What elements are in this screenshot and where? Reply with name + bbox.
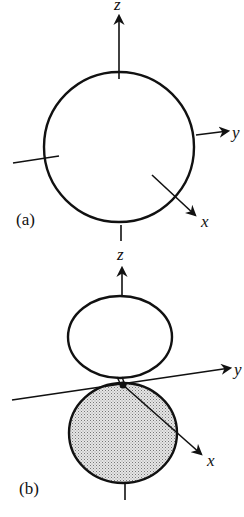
y-label-b: y bbox=[232, 360, 242, 379]
y-axis-a bbox=[196, 131, 228, 135]
panel-label-a: (a) bbox=[16, 210, 35, 229]
z-label-b: z bbox=[116, 245, 124, 264]
neg-y-tick-a bbox=[13, 156, 59, 163]
lower-lobe-shaded bbox=[69, 383, 177, 483]
x-label-b: x bbox=[206, 451, 215, 470]
nucleus-dot bbox=[120, 382, 127, 389]
panel-a: z y x (a) bbox=[13, 0, 240, 241]
z-label-a: z bbox=[113, 0, 121, 14]
x-axis-a bbox=[152, 175, 195, 215]
sphere-outline bbox=[44, 72, 194, 222]
orbital-diagram: z y x (a) z y x (b) bbox=[0, 0, 244, 517]
upper-lobe bbox=[68, 296, 172, 378]
y-label-a: y bbox=[230, 123, 240, 142]
panel-label-b: (b) bbox=[19, 479, 39, 498]
panel-b: z y x (b) bbox=[12, 245, 242, 500]
x-label-a: x bbox=[200, 212, 209, 231]
